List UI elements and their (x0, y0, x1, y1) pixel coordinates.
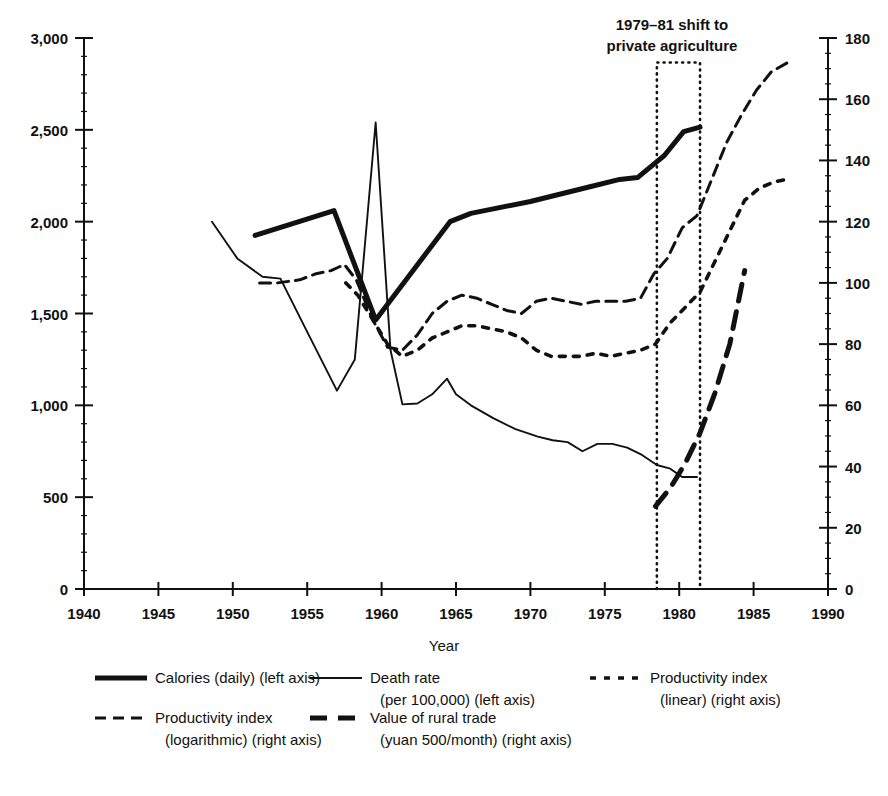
right-axis-tick-label: 40 (845, 459, 862, 476)
legend-label-line-1: Productivity index (650, 669, 768, 686)
x-axis-tick-label: 1950 (216, 605, 249, 622)
left-axis-tick-label: 2,000 (30, 214, 68, 231)
legend-label-line-1: Value of rural trade (370, 709, 496, 726)
legend-label-line-1: Productivity index (155, 709, 273, 726)
legend-label-line-2: (per 100,000) (left axis) (380, 691, 535, 708)
series-group (212, 62, 789, 506)
x-axis-tick-label: 1975 (588, 605, 621, 622)
legend-item-productivity-log: Productivity index(logarithmic) (right a… (95, 709, 322, 748)
left-axis-tick-label: 3,000 (30, 30, 68, 47)
right-axis-tick-label: 100 (845, 275, 870, 292)
right-axis-tick-label: 0 (845, 581, 853, 598)
annotation-line-1: 1979–81 shift to (616, 16, 729, 33)
x-axis-tick-label: 1965 (439, 605, 472, 622)
x-axis-tick-label: 1970 (514, 605, 547, 622)
x-axis-tick-label: 1980 (663, 605, 696, 622)
right-axis-tick-label: 140 (845, 152, 870, 169)
left-axis-tick-label: 1,000 (30, 397, 68, 414)
right-axis-tick-label: 80 (845, 336, 862, 353)
legend-label-line-2: (linear) (right axis) (660, 691, 781, 708)
x-axis-tick-label: 1940 (67, 605, 100, 622)
legend-label-line-2: (logarithmic) (right axis) (165, 731, 322, 748)
legend-item-rural-trade: Value of rural trade(yuan 500/month) (ri… (310, 709, 572, 748)
legend-item-death-rate: Death rate(per 100,000) (left axis) (310, 669, 535, 708)
legend-label-line-1: Death rate (370, 669, 440, 686)
left-axis-tick-labels: 05001,0001,5002,0002,5003,000 (30, 30, 68, 598)
legend-label-line-2: (yuan 500/month) (right axis) (380, 731, 572, 748)
chart-legend: Calories (daily) (left axis)Death rate(p… (95, 669, 781, 748)
right-axis-tick-label: 120 (845, 214, 870, 231)
left-axis-tick-label: 1,500 (30, 306, 68, 323)
legend-item-productivity-linear: Productivity index(linear) (right axis) (590, 669, 781, 708)
right-axis-tick-labels: 020406080100120140160180 (845, 30, 870, 598)
x-axis-tick-label: 1945 (142, 605, 175, 622)
x-axis-tick-label: 1960 (365, 605, 398, 622)
x-axis-tick-label: 1990 (811, 605, 844, 622)
chart-canvas: 05001,0001,5002,0002,5003,000 0204060801… (0, 0, 888, 796)
series-line-calories (255, 127, 700, 320)
axes-group (84, 38, 828, 589)
x-axis-tick-labels: 1940194519501955196019651970197519801985… (67, 605, 844, 622)
series-line-productivity-log (260, 62, 788, 350)
legend-item-calories: Calories (daily) (left axis) (95, 669, 320, 686)
left-axis-tick-label: 2,500 (30, 122, 68, 139)
annotation-line-2: private agriculture (607, 37, 738, 54)
right-axis-tick-label: 60 (845, 397, 862, 414)
right-axis-tick-label: 160 (845, 91, 870, 108)
x-axis-title: Year (429, 637, 459, 654)
x-axis-tick-label: 1985 (737, 605, 770, 622)
chart-figure: 05001,0001,5002,0002,5003,000 0204060801… (0, 0, 888, 796)
left-axis-tick-label: 500 (43, 489, 68, 506)
legend-label-line-1: Calories (daily) (left axis) (155, 669, 320, 686)
left-axis-tick-label: 0 (60, 581, 68, 598)
right-axis-tick-label: 20 (845, 520, 862, 537)
x-axis-tick-label: 1955 (291, 605, 324, 622)
right-axis-tick-label: 180 (845, 30, 870, 47)
